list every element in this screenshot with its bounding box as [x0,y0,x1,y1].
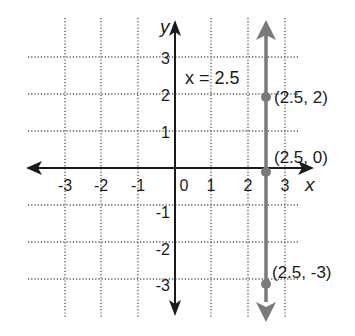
y-tick-3: 3 [161,50,170,67]
point-label-2-5-2: (2.5, 2) [274,88,328,107]
point-2-5-2 [261,92,271,102]
x-tick-neg2: -2 [94,177,108,194]
x-tick-neg1: -1 [131,177,145,194]
y-axis-label: y [158,16,171,37]
x-tick-2: 2 [244,177,253,194]
point-2-5-0 [261,167,271,177]
y-tick-neg2: -2 [156,241,170,258]
x-tick-3: 3 [281,177,290,194]
line-down-arrow-icon [256,302,276,322]
x-tick-neg3: -3 [58,177,72,194]
coordinate-graph: y x 3 2 1 -1 -2 -3 -3 -2 -1 0 1 2 3 x = … [0,0,355,336]
x-tick-0: 0 [180,177,189,194]
y-tick-1: 1 [161,124,170,141]
y-tick-labels: 3 2 1 -1 -2 -3 [156,50,170,294]
point-label-2-5-neg3: (2.5, -3) [272,263,332,282]
x-tick-1: 1 [207,177,216,194]
y-tick-neg1: -1 [156,204,170,221]
equation-label: x = 2.5 [185,68,240,88]
y-tick-2: 2 [161,87,170,104]
x-axis-label: x [304,174,316,195]
point-2-5-neg3 [261,279,271,289]
y-tick-neg3: -3 [156,277,170,294]
point-label-2-5-0: (2.5, 0) [274,148,328,167]
x-tick-labels: -3 -2 -1 0 1 2 3 [58,177,290,194]
